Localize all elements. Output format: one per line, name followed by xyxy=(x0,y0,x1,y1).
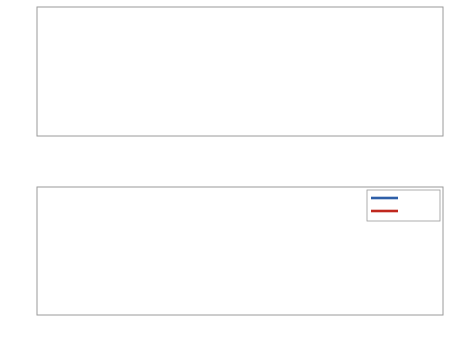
figure xyxy=(0,0,453,352)
bottom-axes-functions xyxy=(37,187,443,315)
top-plot-frame xyxy=(37,7,443,136)
legend-box xyxy=(367,190,440,221)
top-axes-filter-kernel xyxy=(37,7,443,136)
legend xyxy=(367,190,440,221)
